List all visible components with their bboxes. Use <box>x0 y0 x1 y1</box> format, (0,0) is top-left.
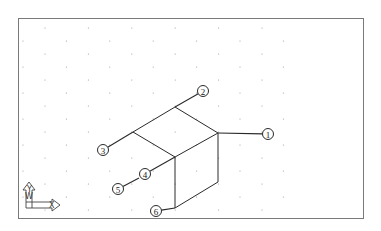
grid-dot <box>153 66 154 67</box>
callout-number: 6 <box>154 207 159 217</box>
grid-dot <box>261 209 262 210</box>
grid-dot <box>109 170 110 171</box>
grid-dot <box>239 196 240 197</box>
isometric-dot-grid <box>22 27 284 210</box>
grid-dot <box>44 157 45 158</box>
grid-dot <box>196 92 197 93</box>
box-bottom-edge <box>175 182 218 208</box>
callout-4: 4 <box>140 157 176 180</box>
ucs-w-label: W <box>25 192 33 201</box>
grid-dot <box>239 144 240 145</box>
grid-dot <box>218 183 219 184</box>
leader-line <box>108 132 133 147</box>
callout-6: 6 <box>151 206 176 217</box>
leader-line <box>218 133 263 134</box>
grid-dot <box>283 92 284 93</box>
grid-dot <box>261 105 262 106</box>
grid-dot <box>175 209 176 210</box>
grid-dot <box>44 79 45 80</box>
grid-dot <box>239 66 240 67</box>
callout-5: 5 <box>113 178 140 195</box>
grid-dot <box>261 79 262 80</box>
isometric-box <box>133 107 218 208</box>
grid-dot <box>88 27 89 28</box>
grid-dot <box>218 131 219 132</box>
callout-number: 1 <box>266 130 271 140</box>
grid-dot <box>66 144 67 145</box>
grid-dot <box>44 131 45 132</box>
grid-dot <box>175 53 176 54</box>
grid-dot <box>283 118 284 119</box>
grid-dot <box>153 170 154 171</box>
callout-number: 3 <box>101 146 106 156</box>
grid-dot <box>261 157 262 158</box>
grid-dot <box>218 79 219 80</box>
grid-dot <box>261 53 262 54</box>
grid-dot <box>22 40 23 41</box>
grid-dot <box>44 209 45 210</box>
grid-dot <box>22 92 23 93</box>
callout-2: 2 <box>175 86 209 108</box>
grid-dot <box>66 170 67 171</box>
grid-dot <box>44 105 45 106</box>
grid-dot <box>44 53 45 54</box>
ucs-x-label: X <box>49 201 55 210</box>
grid-dot <box>196 40 197 41</box>
grid-dot <box>283 144 284 145</box>
grid-dot <box>66 196 67 197</box>
grid-dot <box>88 183 89 184</box>
grid-dot <box>283 40 284 41</box>
callout-3: 3 <box>98 132 134 156</box>
grid-dot <box>22 196 23 197</box>
drawing-frame <box>19 19 364 219</box>
grid-dot <box>131 53 132 54</box>
grid-dot <box>66 118 67 119</box>
grid-dot <box>218 209 219 210</box>
grid-dot <box>44 27 45 28</box>
grid-dot <box>283 66 284 67</box>
callout-number: 4 <box>143 170 148 180</box>
grid-dot <box>88 209 89 210</box>
grid-dot <box>196 170 197 171</box>
isometric-drawing: 123456 Y W X <box>0 0 381 231</box>
drawing-canvas: 123456 Y W X <box>0 0 381 231</box>
grid-dot <box>218 105 219 106</box>
callout-number: 2 <box>201 87 206 97</box>
grid-dot <box>131 105 132 106</box>
grid-dot <box>283 170 284 171</box>
grid-dot <box>218 53 219 54</box>
grid-dot <box>239 170 240 171</box>
grid-dot <box>22 118 23 119</box>
grid-dot <box>88 53 89 54</box>
leader-line <box>123 178 139 186</box>
grid-dot <box>66 92 67 93</box>
grid-dot <box>153 196 154 197</box>
grid-dot <box>131 157 132 158</box>
grid-dot <box>261 183 262 184</box>
grid-dot <box>239 92 240 93</box>
grid-dot <box>239 40 240 41</box>
grid-dot <box>239 118 240 119</box>
grid-dot <box>175 131 176 132</box>
grid-dot <box>261 27 262 28</box>
grid-dot <box>131 27 132 28</box>
grid-dot <box>88 157 89 158</box>
grid-dot <box>109 66 110 67</box>
grid-dot <box>88 131 89 132</box>
grid-dot <box>196 66 197 67</box>
grid-dot <box>22 144 23 145</box>
grid-dot <box>66 40 67 41</box>
grid-dot <box>131 209 132 210</box>
grid-dot <box>109 40 110 41</box>
grid-dot <box>175 79 176 80</box>
leader-line <box>150 157 175 171</box>
grid-dot <box>283 196 284 197</box>
grid-dot <box>218 27 219 28</box>
grid-dot <box>131 79 132 80</box>
grid-dot <box>22 170 23 171</box>
grid-dot <box>66 66 67 67</box>
grid-dot <box>44 183 45 184</box>
grid-dot <box>153 92 154 93</box>
callout-number: 5 <box>116 185 121 195</box>
leader-line <box>161 208 175 210</box>
